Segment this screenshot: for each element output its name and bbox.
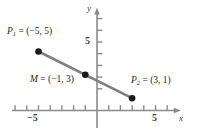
coordinate-plane-figure: P1 = (−5, 5) M = (−1, 3) P2 = (3, 1) −5 … — [0, 0, 197, 134]
point-p1 — [35, 48, 42, 55]
p1-coordinates: = (−5, 5) — [16, 26, 52, 36]
y-tick-label-5: 5 — [85, 36, 90, 46]
p2-variable: P — [131, 75, 137, 85]
y-axis-ticks — [97, 19, 102, 89]
midpoint-coordinates: = (−1, 3) — [38, 74, 74, 84]
point-midpoint — [82, 72, 89, 79]
x-tick-label-neg5: −5 — [27, 113, 38, 123]
midpoint-variable: M — [30, 74, 38, 84]
x-tick-label-5: 5 — [152, 113, 157, 123]
point-p2 — [129, 95, 136, 102]
y-axis-label: y — [87, 4, 91, 13]
p1-label: P1 = (−5, 5) — [7, 27, 52, 37]
x-axis-label: x — [179, 114, 183, 123]
p2-coordinates: = (3, 1) — [140, 75, 171, 85]
p2-label: P2 = (3, 1) — [131, 76, 171, 86]
p1-variable: P — [7, 26, 13, 36]
p1-subscript: 1 — [13, 30, 16, 37]
p2-subscript: 2 — [137, 79, 140, 86]
midpoint-label: M = (−1, 3) — [30, 75, 74, 85]
